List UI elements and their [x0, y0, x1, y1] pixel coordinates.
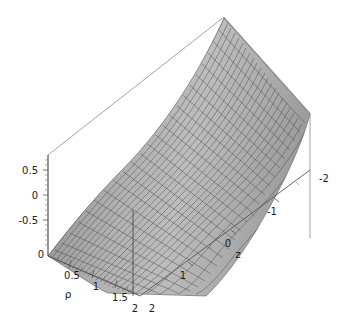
z-tick-label-2: 0	[225, 238, 231, 249]
rho-tick-label-4: 2	[132, 303, 138, 314]
z-tick-label-4: -2	[319, 173, 329, 184]
vertical-tick-label-1: 0	[32, 190, 38, 201]
rho-tick-label-3: 1.5	[112, 292, 128, 303]
rho-tick-label-1: 0.5	[64, 270, 80, 281]
z-axis-title: z	[235, 248, 241, 260]
z-tick-label-3: -1	[267, 206, 277, 217]
rho-axis-title: ρ	[65, 288, 72, 300]
rho-tick-label-0: 0	[38, 249, 44, 260]
rho-tick-label-2: 1	[93, 281, 99, 292]
z-tick-label-1: 1	[180, 270, 186, 281]
vertical-tick-label-2: -0.5	[18, 215, 38, 226]
surface-plot-figure: 0.5 0 -0.5 0 0.5 1 1.5 2 ρ	[0, 0, 341, 327]
surface-body	[48, 18, 310, 296]
plot-canvas: 0.5 0 -0.5 0 0.5 1 1.5 2 ρ	[0, 0, 341, 327]
vertical-axis: 0.5 0 -0.5	[18, 155, 48, 256]
surface-mesh	[48, 18, 310, 296]
z-tick-label-0: 2	[149, 303, 155, 314]
vertical-tick-label-0: 0.5	[22, 165, 38, 176]
